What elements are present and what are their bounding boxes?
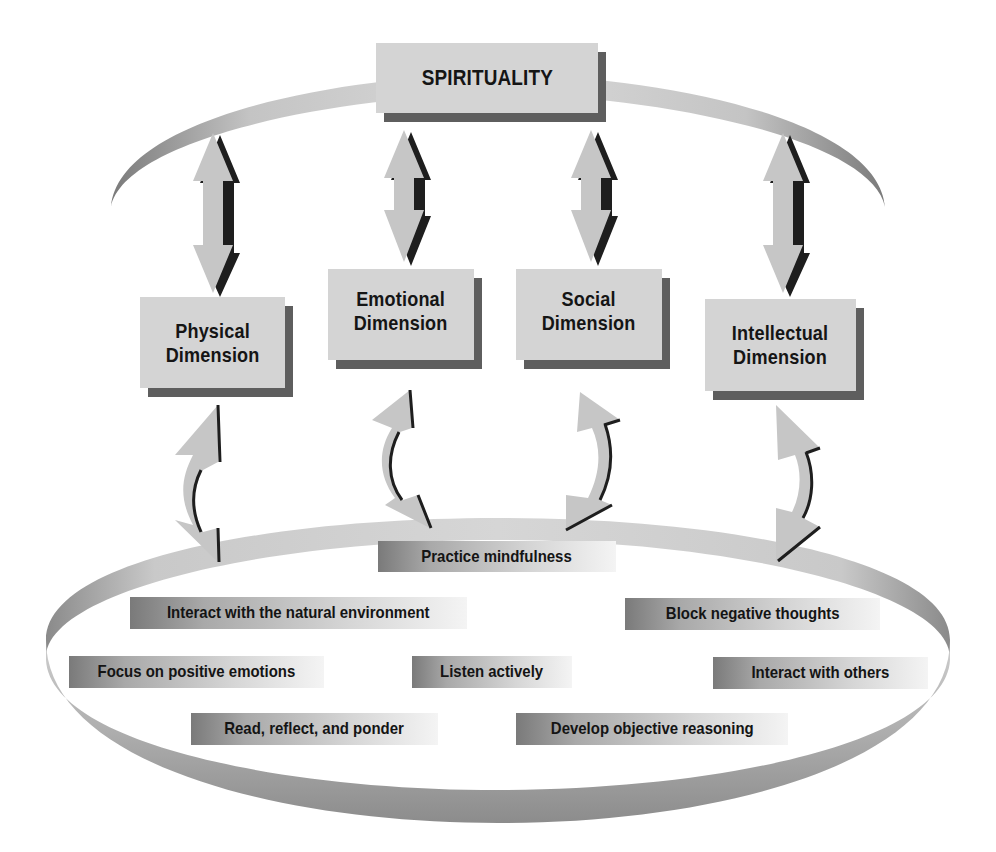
emotional-line1: Emotional [354, 287, 448, 311]
practice-label: Focus on positive emotions [98, 662, 296, 682]
intellectual-line1: Intellectual [732, 321, 828, 345]
intellectual-line2: Dimension [732, 345, 828, 369]
focus-positive-emotions-tag: Focus on positive emotions [69, 656, 324, 688]
practice-label: Block negative thoughts [666, 604, 840, 624]
curved-arrow-emotional [372, 390, 431, 528]
curved-arrow-social [566, 392, 620, 530]
practice-label: Practice mindfulness [422, 547, 572, 567]
practice-label: Develop objective reasoning [551, 719, 754, 739]
develop-objective-reasoning-tag: Develop objective reasoning [516, 713, 788, 745]
listen-actively-tag: Listen actively [412, 656, 572, 688]
practice-label: Read, reflect, and ponder [225, 719, 405, 739]
double-arrow-physical [193, 133, 240, 297]
practice-label: Listen actively [440, 662, 543, 682]
social-dimension-box: Social Dimension [516, 269, 662, 360]
curved-arrow-physical [175, 405, 220, 562]
block-negative-thoughts-tag: Block negative thoughts [625, 598, 880, 630]
interact-with-others-tag: Interact with others [713, 657, 928, 689]
double-arrow-intellectual [763, 133, 810, 297]
physical-dimension-box: Physical Dimension [140, 297, 285, 388]
spirituality-box: SPIRITUALITY [376, 43, 598, 113]
emotional-line2: Dimension [354, 311, 448, 335]
physical-line2: Dimension [166, 343, 260, 367]
social-line2: Dimension [542, 311, 636, 335]
spirituality-label: SPIRITUALITY [421, 66, 552, 90]
intellectual-dimension-box: Intellectual Dimension [705, 299, 856, 391]
practice-mindfulness-tag: Practice mindfulness [378, 541, 616, 572]
interact-natural-environment-tag: Interact with the natural environment [130, 597, 467, 629]
read-reflect-ponder-tag: Read, reflect, and ponder [191, 713, 438, 745]
curved-arrow-intellectual [776, 405, 820, 562]
diagram-canvas [0, 0, 996, 852]
double-arrow-social [571, 130, 618, 266]
social-line1: Social [542, 287, 636, 311]
emotional-dimension-box: Emotional Dimension [328, 269, 474, 360]
practice-label: Interact with the natural environment [167, 603, 430, 623]
practice-label: Interact with others [752, 663, 890, 683]
double-arrow-emotional [384, 130, 431, 266]
physical-line1: Physical [166, 319, 260, 343]
